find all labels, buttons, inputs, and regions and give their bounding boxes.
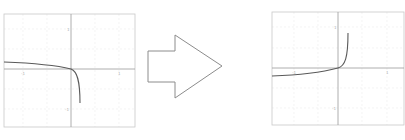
right-arrow-icon	[140, 20, 270, 130]
left-plot-curve	[4, 62, 80, 103]
left-plot-tick-y-pos: 1	[67, 27, 70, 32]
right-plot: -1 1 1 -1	[265, 0, 405, 140]
transform-arrow	[148, 35, 222, 98]
left-plot: -1 1 1 -1	[0, 0, 140, 140]
left-plot-tick-y-neg: -1	[65, 107, 69, 112]
right-plot-curve	[272, 33, 348, 76]
left-plot-tick-x-pos: 1	[118, 71, 121, 76]
right-plot-tick-x-pos: 1	[386, 70, 389, 75]
left-plot-tick-x-neg: -1	[21, 71, 25, 76]
right-plot-tick-y-neg: -1	[332, 106, 336, 111]
right-plot-tick-y-pos: 1	[334, 25, 337, 30]
